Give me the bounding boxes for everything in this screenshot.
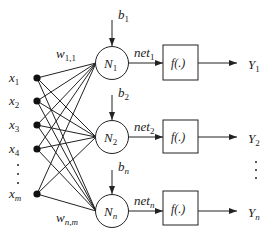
bias-label-bn: bn	[118, 159, 130, 176]
output-label-yn: Yn	[248, 205, 260, 222]
input-label-x1: x1	[8, 70, 19, 87]
net-label-1: net1	[134, 45, 154, 62]
bias-label-b2: b2	[118, 85, 129, 102]
diagram-canvas: x1 x2 x3 x4 xm w1,1 wn,m b1 N1 net1 f(.)…	[0, 0, 273, 237]
neuron-1: b1 N1 net1 f(.) Y1	[96, 7, 260, 80]
input-node-x1	[33, 74, 40, 81]
weight-label-wnm: wn,m	[56, 210, 78, 227]
output-ellipsis	[255, 161, 257, 179]
neuron-2: b2 N2 net2 f(.) Y2	[96, 85, 260, 154]
input-node-x4	[33, 145, 40, 152]
input-label-xm: xm	[8, 186, 22, 203]
net-label-2: net2	[134, 119, 154, 136]
activation-label-n: f(.)	[171, 202, 185, 216]
input-node-x3	[33, 121, 40, 128]
weight-label-w11: w1,1	[56, 46, 76, 63]
output-label-y1: Y1	[248, 57, 260, 74]
bias-label-b1: b1	[118, 7, 129, 24]
input-nodes	[33, 74, 40, 197]
neuron-n: bn Nn netn f(.) Yn	[96, 159, 261, 228]
neural-network-diagram: x1 x2 x3 x4 xm w1,1 wn,m b1 N1 net1 f(.)…	[0, 0, 273, 237]
input-label-x2: x2	[8, 93, 19, 110]
input-node-xm	[33, 190, 40, 197]
activation-label-1: f(.)	[171, 56, 185, 70]
weight-connections	[37, 63, 96, 211]
output-label-y2: Y2	[248, 131, 260, 148]
input-node-x2	[33, 97, 40, 104]
net-label-n: netn	[134, 193, 155, 210]
input-label-x3: x3	[8, 117, 20, 134]
activation-label-2: f(.)	[171, 130, 185, 144]
input-ellipsis	[17, 164, 19, 184]
input-label-x4: x4	[8, 141, 20, 158]
